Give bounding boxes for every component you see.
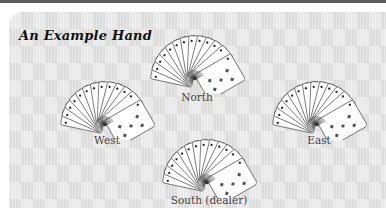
card-fan-icon xyxy=(149,24,245,94)
top-bar xyxy=(0,0,386,3)
card-fan-icon xyxy=(161,128,257,198)
page-title: An Example Hand xyxy=(19,28,152,43)
hand-east: East xyxy=(271,70,367,154)
hand-panel: An Example Hand North West East South (d… xyxy=(9,12,386,208)
card-fan-icon xyxy=(59,70,155,140)
hand-south: South (dealer) xyxy=(161,128,257,208)
hand-north: North xyxy=(149,24,245,108)
hand-label-west: West xyxy=(59,134,155,146)
hand-label-south: South (dealer) xyxy=(154,194,264,206)
hand-west: West xyxy=(59,70,155,154)
hand-label-north: North xyxy=(149,91,245,103)
hand-label-east: East xyxy=(271,134,367,146)
card-fan-icon xyxy=(271,70,367,140)
